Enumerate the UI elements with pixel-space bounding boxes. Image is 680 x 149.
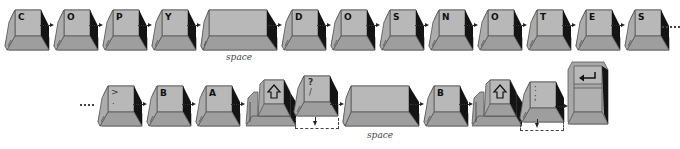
space-caption: space bbox=[226, 52, 252, 62]
press-down-arrow-icon bbox=[313, 121, 317, 126]
sequence-arrow bbox=[40, 25, 52, 27]
key-label: E bbox=[589, 13, 595, 22]
sequence-arrow bbox=[330, 104, 342, 106]
key-space bbox=[343, 84, 421, 128]
key-b: B bbox=[147, 84, 193, 128]
key-shift bbox=[246, 80, 298, 128]
key-label: B bbox=[437, 89, 444, 98]
key-b: B bbox=[424, 84, 470, 128]
key-label: P bbox=[116, 13, 123, 22]
sequence-arrow bbox=[133, 104, 145, 106]
key-label: O bbox=[67, 13, 75, 22]
sequence-arrow bbox=[562, 25, 574, 27]
key-n: N bbox=[429, 8, 475, 52]
sequence-arrow bbox=[182, 104, 194, 106]
key-label: O bbox=[344, 13, 352, 22]
key-a: A bbox=[196, 84, 242, 128]
key-e: E bbox=[576, 8, 622, 52]
key-label: N bbox=[442, 13, 450, 22]
key-shift bbox=[472, 80, 524, 128]
key-label: C bbox=[18, 13, 25, 22]
key-label: ? bbox=[308, 78, 313, 87]
key-y: Y bbox=[152, 8, 198, 52]
press-down-arrow-icon bbox=[535, 123, 539, 128]
keypress-indicator bbox=[295, 118, 339, 129]
key-label: B bbox=[160, 89, 167, 98]
sequence-arrow bbox=[611, 25, 623, 27]
sequence-arrow bbox=[555, 106, 566, 108]
key-sublabel: / bbox=[309, 89, 312, 97]
key-c: C bbox=[5, 8, 51, 52]
key-label: A bbox=[209, 89, 216, 98]
key-sublabel: ; bbox=[534, 94, 537, 102]
sequence-arrow bbox=[231, 104, 243, 106]
key-label: D bbox=[295, 13, 302, 22]
key-s: S bbox=[380, 8, 426, 52]
sequence-arrow bbox=[459, 104, 471, 106]
sequence-arrow bbox=[138, 25, 150, 27]
continuation-dots bbox=[662, 26, 680, 29]
key-sublabel: . bbox=[112, 98, 115, 106]
sequence-arrow bbox=[268, 25, 280, 27]
key-space bbox=[201, 8, 279, 52]
sequence-arrow bbox=[415, 25, 427, 27]
key-colon-semicolon: : ; bbox=[520, 80, 566, 124]
sequence-arrow bbox=[464, 25, 476, 27]
space-caption: space bbox=[367, 130, 393, 140]
key-label: Y bbox=[165, 13, 172, 22]
sequence-arrow bbox=[366, 25, 378, 27]
key-o: O bbox=[478, 8, 524, 52]
key-return bbox=[568, 62, 612, 126]
key-d: D bbox=[282, 8, 328, 52]
sequence-arrow bbox=[317, 25, 329, 27]
key-label: : bbox=[534, 85, 537, 93]
keypress-indicator bbox=[520, 121, 564, 131]
key-t: T bbox=[527, 8, 573, 52]
key-s: S bbox=[625, 8, 671, 52]
key-label: S bbox=[393, 13, 399, 22]
key-question-slash: ? / bbox=[294, 74, 340, 118]
key-label: O bbox=[491, 13, 499, 22]
continuation-dots bbox=[80, 104, 94, 107]
sequence-arrow bbox=[89, 25, 101, 27]
key-period-greater: > . bbox=[98, 84, 144, 128]
sequence-arrow bbox=[410, 104, 422, 106]
key-label: > bbox=[111, 88, 119, 97]
key-p: P bbox=[103, 8, 149, 52]
key-o: O bbox=[331, 8, 377, 52]
key-label: T bbox=[540, 13, 546, 22]
key-label: S bbox=[638, 13, 644, 22]
sequence-arrow bbox=[187, 25, 199, 27]
key-o: O bbox=[54, 8, 100, 52]
sequence-arrow bbox=[513, 25, 525, 27]
